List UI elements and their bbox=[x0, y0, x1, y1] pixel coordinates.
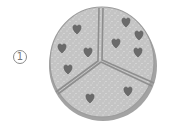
cookie-icon bbox=[0, 0, 169, 131]
